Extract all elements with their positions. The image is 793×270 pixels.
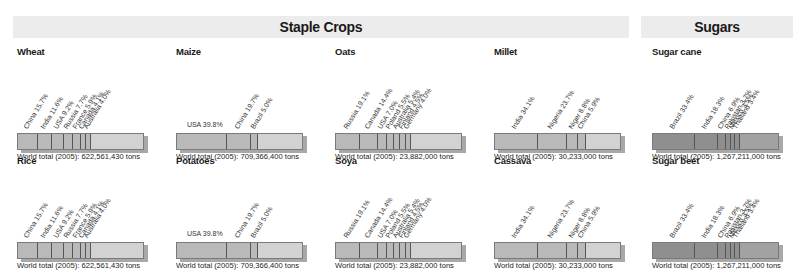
- bar-track: [494, 242, 621, 259]
- bar-segment: [406, 134, 411, 149]
- stacked-bar: [335, 133, 462, 150]
- bar-segment: [495, 243, 538, 258]
- world-total: World total (2005): 709,366,400 tons: [176, 261, 299, 270]
- segment-labels: USA 39.8%China 19.7%Brazil 5.0%: [176, 60, 302, 130]
- bar-segment: [336, 134, 360, 149]
- chart-panel: SoyaRussia 19.1%Canada 14.4%USA 7.0%Pola…: [331, 155, 481, 265]
- stacked-bar: [17, 242, 144, 259]
- bar-segment: [73, 134, 80, 149]
- segment-label: Brazil 33.4%: [668, 93, 695, 130]
- chart-title: Sugar cane: [652, 46, 701, 57]
- world-total: World total (2005): 622,561,430 tons: [17, 261, 140, 270]
- bar-segment: [735, 243, 739, 258]
- segment-labels: Russia 19.1%Canada 14.4%USA 7.0%Poland 5…: [335, 60, 461, 130]
- bar-track: [17, 133, 144, 150]
- segment-labels: China 15.7%India 11.6%USA 9.2%Russia 7.7…: [17, 60, 143, 130]
- chart-panel: RiceChina 15.7%India 11.6%USA 9.2%Russia…: [13, 155, 163, 265]
- bar-track: [652, 242, 779, 259]
- staple-crops-header: Staple Crops: [13, 16, 629, 38]
- bar-segment: [653, 243, 695, 258]
- segment-label: India 34.1%: [510, 95, 536, 130]
- chart-panel: PotatoesUSA 39.8%China 19.7%Brazil 5.0%W…: [172, 155, 322, 265]
- bar-track: [335, 242, 462, 259]
- bar-segment: [251, 243, 257, 258]
- chart-panel: CassavaIndia 34.1%Nigeria 23.7%Niger 8.8…: [490, 155, 640, 265]
- chart-panel: MilletIndia 34.1%Nigeria 23.7%Niger 8.8%…: [490, 46, 640, 156]
- bar-segment: [378, 243, 387, 258]
- chart-title: Oats: [335, 46, 355, 57]
- chart-title: Potatoes: [176, 155, 215, 166]
- segment-labels: USA 39.8%China 19.7%Brazil 5.0%: [176, 169, 302, 239]
- chart-panel: Sugar caneBrazil 33.4%India 18.3%China 6…: [648, 46, 793, 156]
- chart-title: Millet: [494, 46, 517, 57]
- stacked-bar: [652, 242, 779, 259]
- bar-segment: [538, 134, 568, 149]
- bar-segment: [567, 134, 578, 149]
- segment-label: India 34.1%: [510, 204, 536, 239]
- bar-segment: [578, 243, 585, 258]
- chart-panel: WheatChina 15.7%India 11.6%USA 9.2%Russi…: [13, 46, 163, 156]
- bar-segment: [387, 134, 394, 149]
- chart-panel: MaizeUSA 39.8%China 19.7%Brazil 5.0%Worl…: [172, 46, 322, 156]
- chart-title: Maize: [176, 46, 201, 57]
- bar-segment: [52, 134, 64, 149]
- bar-segment: [495, 134, 538, 149]
- bar-segment: [227, 243, 252, 258]
- segment-labels: Russia 19.1%Canada 14.4%USA 7.0%Poland 5…: [335, 169, 461, 239]
- bar-segment: [52, 243, 64, 258]
- bar-segment: [394, 134, 401, 149]
- world-total: World total (2005): 23,882,000 tons: [335, 261, 454, 270]
- bar-segment: [735, 134, 739, 149]
- bar-track: [176, 242, 303, 259]
- bar-segment: [18, 134, 38, 149]
- bar-track: [652, 133, 779, 150]
- chart-panel: Sugar beetBrazil 33.4%India 18.3%China 6…: [648, 155, 793, 265]
- bar-segment: [567, 243, 578, 258]
- bar-track: [335, 133, 462, 150]
- bar-segment: [360, 134, 378, 149]
- bar-segment: [177, 243, 227, 258]
- segment-labels: Brazil 33.4%India 18.3%China 6.9%Pakista…: [652, 60, 778, 130]
- stacked-bar: [494, 242, 621, 259]
- segment-labels: India 34.1%Nigeria 23.7%Niger 8.8%China …: [494, 60, 620, 130]
- chart-title: Wheat: [17, 46, 45, 57]
- bar-track: [17, 242, 144, 259]
- bar-segment: [251, 134, 257, 149]
- chart-panel: OatsRussia 19.1%Canada 14.4%USA 7.0%Pola…: [331, 46, 481, 156]
- bar-track: [494, 133, 621, 150]
- bar-track: [176, 133, 303, 150]
- chart-title: Soya: [335, 155, 357, 166]
- segment-labels: India 34.1%Nigeria 23.7%Niger 8.8%China …: [494, 169, 620, 239]
- bar-segment: [538, 243, 568, 258]
- bar-segment: [227, 134, 252, 149]
- bar-segment: [86, 243, 91, 258]
- bar-segment: [64, 243, 74, 258]
- bar-segment: [86, 134, 91, 149]
- segment-label: Brazil 33.4%: [668, 202, 695, 239]
- stacked-bar: [494, 133, 621, 150]
- bar-segment: [718, 243, 727, 258]
- segment-labels: China 15.7%India 11.6%USA 9.2%Russia 7.7…: [17, 169, 143, 239]
- sugars-header: Sugars: [641, 16, 793, 38]
- bar-segment: [336, 243, 360, 258]
- world-total: World total (2005): 1,267,211,000 tons: [652, 261, 781, 270]
- bar-segment: [378, 134, 387, 149]
- bar-segment: [695, 243, 718, 258]
- segment-label: USA 39.8%: [187, 230, 223, 237]
- bar-segment: [177, 134, 227, 149]
- world-total: World total (2005): 30,233,000 tons: [494, 261, 613, 270]
- bar-segment: [73, 243, 80, 258]
- segment-labels: Brazil 33.4%India 18.3%China 6.9%Pakista…: [652, 169, 778, 239]
- stacked-bar: [652, 133, 779, 150]
- bar-segment: [64, 134, 74, 149]
- chart-title: Sugar beet: [652, 155, 699, 166]
- bar-segment: [695, 134, 718, 149]
- chart-title: Cassava: [494, 155, 531, 166]
- stacked-bar: [17, 133, 144, 150]
- bar-segment: [18, 243, 38, 258]
- bar-segment: [406, 243, 411, 258]
- stacked-bar: [176, 242, 303, 259]
- bar-segment: [394, 243, 401, 258]
- bar-segment: [360, 243, 378, 258]
- bar-segment: [653, 134, 695, 149]
